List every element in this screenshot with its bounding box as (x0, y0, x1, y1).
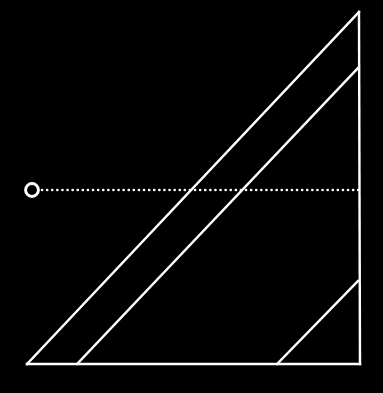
vertical-right-side (359, 12, 360, 364)
line-drawing-svg (0, 0, 383, 393)
background-rect (0, 0, 383, 393)
figure-canvas (0, 0, 383, 393)
